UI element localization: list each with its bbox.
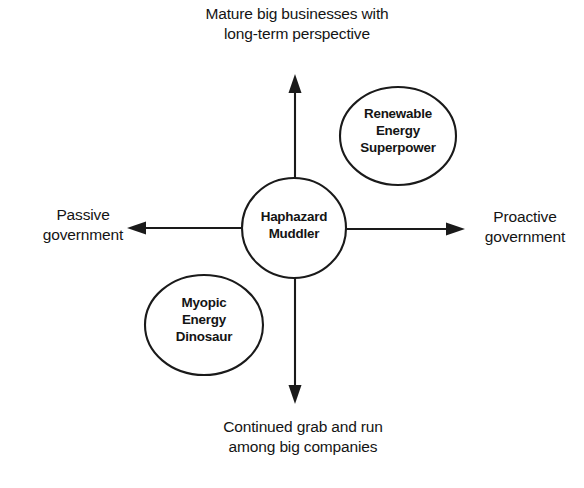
axis-label-right: Proactive government (466, 207, 584, 247)
node-label-haphazard-muddler: Haphazard Muddler (239, 209, 349, 243)
axis-label-left: Passive government (22, 205, 144, 245)
axis-label-top: Mature big businesses with long-term per… (172, 4, 422, 44)
scenario-matrix-diagram: Mature big businesses with long-term per… (0, 0, 584, 488)
arrow-head-up (289, 74, 302, 93)
node-label-renewable-energy-superpower: Renewable Energy Superpower (343, 106, 453, 157)
axis-label-bottom: Continued grab and run among big compani… (178, 417, 428, 457)
arrow-head-down (289, 385, 302, 404)
arrow-head-right (446, 223, 465, 236)
node-label-myopic-energy-dinosaur: Myopic Energy Dinosaur (149, 295, 259, 346)
